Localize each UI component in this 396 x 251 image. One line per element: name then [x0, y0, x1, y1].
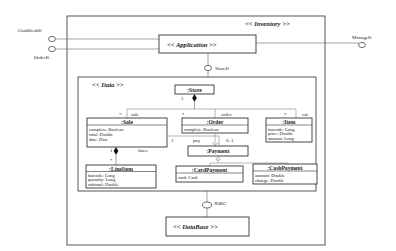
class-name: :Sale	[121, 119, 133, 125]
multiplicity-label: 1	[110, 148, 113, 153]
multiplicity-label: *	[284, 112, 287, 117]
class-cashpayment: :CashPayment amount: Double change: Doub…	[253, 164, 317, 184]
class-payment: :Payment	[188, 146, 248, 156]
class-name: :Order	[207, 119, 224, 125]
data-stereotype: << Data >>	[92, 81, 124, 88]
multiplicity-label: 0..1	[226, 138, 234, 143]
attribute: change: Double	[255, 178, 284, 183]
application-stereotype: << Application >>	[167, 41, 217, 48]
lollipop-icon	[49, 46, 56, 51]
attribute: amount: Long	[268, 136, 295, 141]
class-order: :Order complete: Boolean	[182, 118, 248, 133]
class-item: :Item barcode: Long price: Double amount…	[266, 118, 312, 142]
attribute: subtotal: Double	[88, 182, 119, 187]
jdbc-interface: JDBC	[203, 191, 227, 217]
lollipop-icon	[49, 36, 56, 41]
store-interface: StoreIf	[205, 53, 230, 77]
application-component: << Application >>	[159, 35, 256, 53]
class-name: :CardPayment	[192, 167, 228, 173]
jdbc-interface-label: JDBC	[214, 201, 227, 206]
order-interface: OrderIf	[34, 46, 159, 60]
class-name: :CashPayment	[267, 165, 302, 171]
database-component: << DataBase >>	[166, 217, 249, 236]
role-label: cat	[302, 112, 308, 117]
manage-interface-label: ManageIf	[352, 35, 372, 40]
role-label: sale	[131, 112, 140, 117]
class-lineitem: :LineItem barcode: Long quantity: Long s…	[86, 165, 156, 188]
attribute: card: Card	[178, 175, 198, 180]
store-interface-label: StoreIf	[215, 66, 229, 71]
database-stereotype: << DataBase >>	[173, 223, 218, 230]
multiplicity-label: *	[110, 158, 113, 163]
generalization-arrow-icon	[216, 156, 220, 160]
class-name: :LineItem	[109, 166, 133, 172]
role-label: order	[221, 112, 232, 117]
lollipop-icon	[205, 65, 212, 70]
lollipop-icon	[203, 202, 212, 208]
composition-diamond-icon	[192, 94, 197, 102]
multiplicity-label: 1	[181, 96, 184, 101]
role-label: lines	[138, 148, 147, 153]
attribute: date: Date	[89, 137, 108, 142]
multiplicity-label: *	[182, 112, 185, 117]
class-store: :Store	[175, 85, 214, 94]
lollipop-icon	[359, 42, 366, 47]
cashdesk-interface: CashDeskIf	[18, 28, 159, 42]
multiplicity-label: *	[119, 112, 122, 117]
class-sale: :Sale complete: Boolean total: Double da…	[87, 118, 167, 147]
class-cardpayment: :CardPayment card: Card	[176, 166, 243, 182]
attribute: complete: Boolean	[184, 127, 219, 132]
manage-interface: ManageIf	[256, 35, 372, 48]
inventory-stereotype: << Inventory >>	[245, 20, 290, 27]
multiplicity-label: 1	[171, 138, 174, 143]
composition-diamond-icon	[114, 147, 119, 155]
cashdesk-interface-label: CashDeskIf	[18, 28, 42, 33]
class-name: :Store	[187, 87, 202, 93]
role-label: pay	[193, 138, 201, 143]
class-name: :Payment	[207, 148, 230, 154]
uml-component-diagram: << Inventory >> CashDeskIf OrderIf << Ap…	[0, 0, 396, 251]
class-name: :Item	[282, 119, 295, 125]
order-interface-label: OrderIf	[34, 55, 49, 60]
